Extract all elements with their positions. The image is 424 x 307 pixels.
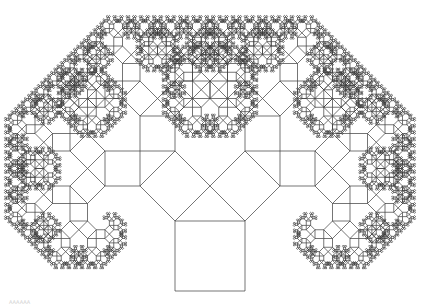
branch-square <box>318 42 320 44</box>
branch-square <box>80 136 82 138</box>
branch-square <box>98 72 102 76</box>
branch-square <box>385 204 394 213</box>
branch-square <box>280 64 298 82</box>
branch-square <box>193 53 197 57</box>
branch-square <box>166 105 170 109</box>
branch-square <box>166 109 170 113</box>
branch-square <box>378 217 380 219</box>
branch-square <box>165 116 167 118</box>
branch-square <box>381 119 383 121</box>
branch-square <box>250 70 252 72</box>
branch-square <box>389 239 391 241</box>
branch-square <box>295 230 297 232</box>
branch-square <box>26 204 35 213</box>
branch-square <box>21 182 23 184</box>
branch-square <box>185 37 187 39</box>
branch-square <box>374 151 378 155</box>
branch-square <box>94 46 98 50</box>
branch-square <box>70 51 72 53</box>
branch-square <box>387 151 391 155</box>
branch-square <box>56 219 58 221</box>
branch-square <box>371 74 373 76</box>
branch-square <box>232 134 234 136</box>
branch-square <box>171 118 173 120</box>
branch-square <box>311 77 313 79</box>
branch-square <box>411 171 413 173</box>
branch-square <box>53 171 57 175</box>
branch-square <box>184 86 186 88</box>
branch-square <box>280 32 282 34</box>
branch-square <box>225 18 227 20</box>
branch-square <box>123 223 125 225</box>
branch-square <box>206 68 208 70</box>
branch-square <box>93 267 95 269</box>
branch-square <box>411 144 413 146</box>
branch-square <box>35 109 39 113</box>
branch-square <box>370 234 374 238</box>
branch-square <box>193 134 195 136</box>
branch-square <box>46 116 50 120</box>
branch-square <box>136 58 138 60</box>
branch-square <box>211 37 213 39</box>
branch-square <box>405 112 407 114</box>
branch-square <box>374 251 376 253</box>
branch-square <box>325 29 327 31</box>
branch-square <box>280 151 315 186</box>
branch-square <box>23 219 25 221</box>
branch-square <box>123 25 125 27</box>
branch-square <box>319 81 328 90</box>
branch-square <box>42 149 44 151</box>
branch-square <box>114 120 116 122</box>
branch-square <box>48 120 50 122</box>
branch-square <box>368 118 370 120</box>
branch-square <box>4 196 6 198</box>
branch-square <box>26 113 28 115</box>
branch-square <box>27 188 29 190</box>
branch-square <box>308 125 310 127</box>
branch-square <box>357 260 361 264</box>
branch-square <box>53 223 57 227</box>
branch-square <box>105 103 114 112</box>
branch-square <box>83 51 85 53</box>
branch-square <box>249 109 253 113</box>
branch-square <box>363 221 365 223</box>
diagram-canvas <box>0 0 424 307</box>
branch-square <box>31 177 35 181</box>
branch-square <box>324 239 333 248</box>
branch-square <box>9 201 13 205</box>
branch-square <box>293 91 295 93</box>
branch-square <box>207 15 209 17</box>
branch-square <box>365 72 367 74</box>
branch-square <box>413 191 415 193</box>
branch-square <box>63 58 65 60</box>
branch-square <box>132 37 134 39</box>
branch-square <box>68 72 72 76</box>
branch-square <box>256 100 258 102</box>
branch-square <box>9 175 13 179</box>
branch-square <box>127 24 129 26</box>
branch-square <box>118 92 122 96</box>
branch-square <box>236 103 245 112</box>
branch-square <box>411 131 413 133</box>
branch-square <box>191 136 193 138</box>
branch-square <box>75 114 77 116</box>
branch-square <box>120 20 124 24</box>
branch-square <box>59 178 61 180</box>
branch-square <box>265 64 269 68</box>
branch-square <box>413 178 415 180</box>
branch-square <box>144 66 146 68</box>
branch-square <box>359 66 361 68</box>
branch-square <box>245 37 247 39</box>
branch-square <box>407 214 411 218</box>
branch-square <box>219 107 228 116</box>
branch-square <box>13 223 15 225</box>
branch-square <box>61 239 70 248</box>
branch-square <box>184 60 186 62</box>
branch-square <box>171 92 173 94</box>
branch-square <box>55 232 57 234</box>
branch-square <box>284 24 286 26</box>
branch-square <box>14 228 16 230</box>
branch-square <box>114 107 118 111</box>
branch-square <box>411 158 413 160</box>
branch-square <box>291 35 293 37</box>
